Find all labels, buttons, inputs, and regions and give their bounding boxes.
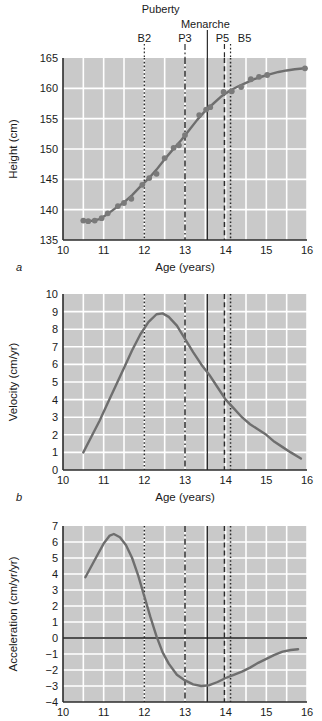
x-tick-label: 13 (179, 474, 191, 486)
y-tick-label: 4 (52, 394, 58, 406)
x-tick-label: 11 (98, 706, 109, 718)
x-tick-label: 16 (301, 474, 313, 486)
y-tick-label: 8 (52, 323, 58, 335)
y-tick-label: 2 (52, 600, 58, 612)
panel-label: a (16, 261, 22, 273)
marker-label-p3: P3 (178, 32, 191, 44)
data-point (80, 218, 86, 224)
x-tick-label: 13 (179, 244, 191, 256)
data-point (154, 171, 160, 177)
y-tick-label: −3 (45, 680, 58, 692)
data-point (92, 218, 98, 224)
y-tick-label: 0 (52, 464, 58, 476)
growth-curves-figure: 10111213141516135140145150155160165Heigh… (0, 0, 322, 721)
y-axis-title: Acceleration (cm/yr/yr) (7, 556, 19, 671)
y-tick-label: 3 (52, 411, 58, 423)
y-tick-label: 4 (52, 568, 58, 580)
panel-label: b (16, 491, 22, 503)
x-tick-label: 12 (138, 244, 150, 256)
data-point (238, 84, 244, 90)
y-tick-label: −1 (45, 648, 58, 660)
data-point (121, 200, 127, 206)
data-point (264, 72, 270, 78)
y-tick-label: 10 (46, 288, 58, 300)
y-axis-title: Height (cm) (7, 119, 19, 179)
y-tick-label: 6 (52, 536, 58, 548)
x-tick-label: 15 (260, 706, 272, 718)
marker-label-p5: P5 (216, 32, 229, 44)
y-tick-label: 3 (52, 584, 58, 596)
y-tick-label: 1 (52, 616, 58, 628)
x-tick-label: 12 (138, 706, 150, 718)
y-tick-label: −4 (45, 696, 58, 708)
y-tick-label: 5 (52, 552, 58, 564)
y-tick-label: 9 (52, 306, 58, 318)
data-point (196, 112, 202, 118)
data-point (115, 203, 121, 209)
marker-label-b2: B2 (138, 32, 151, 44)
marker-label-b5: B5 (238, 32, 251, 44)
x-tick-label: 11 (98, 244, 109, 256)
x-tick-label: 10 (57, 474, 69, 486)
data-point (85, 218, 91, 224)
y-tick-label: 140 (40, 204, 58, 216)
x-tick-label: 11 (98, 474, 109, 486)
data-point (162, 155, 168, 161)
data-point (146, 175, 152, 181)
y-tick-label: 135 (40, 234, 58, 246)
x-tick-label: 14 (220, 706, 232, 718)
data-point (99, 215, 105, 221)
y-axis-title: Velocity (cm/yr) (7, 343, 19, 422)
y-tick-label: 155 (40, 113, 58, 125)
x-tick-label: 15 (260, 474, 272, 486)
y-tick-label: 160 (40, 82, 58, 94)
height-chart: 10111213141516135140145150155160165Heigh… (0, 0, 322, 282)
data-point (171, 145, 177, 151)
y-tick-label: 1 (52, 446, 58, 458)
group-label-menarche: Menarche (181, 18, 230, 30)
data-point (229, 88, 235, 94)
y-tick-label: −2 (45, 664, 58, 676)
data-point (105, 210, 111, 216)
data-point (248, 76, 254, 82)
x-axis-title: Age (years) (155, 261, 215, 273)
data-point (256, 74, 262, 80)
panel-acceleration: 10111213141516−4−3−2−101234567Accelerati… (0, 514, 322, 721)
y-tick-label: 145 (40, 173, 58, 185)
y-tick-label: 7 (52, 341, 58, 353)
data-point (207, 104, 213, 110)
y-tick-label: 0 (52, 632, 58, 644)
x-tick-label: 14 (220, 474, 232, 486)
acceleration-chart: 10111213141516−4−3−2−101234567Accelerati… (0, 514, 322, 721)
x-tick-label: 16 (301, 244, 313, 256)
panel-height: 10111213141516135140145150155160165Heigh… (0, 0, 322, 282)
y-tick-label: 7 (52, 520, 58, 532)
group-label-puberty: Puberty (142, 3, 180, 15)
x-tick-label: 10 (57, 244, 69, 256)
data-point (221, 89, 227, 95)
x-axis-title: Age (years) (155, 491, 215, 503)
chart-annotations: B2P3P5B5PubertyMenarche (138, 3, 252, 58)
data-point (302, 65, 308, 71)
y-tick-label: 150 (40, 143, 58, 155)
data-point (128, 196, 134, 202)
velocity-chart: 10111213141516012345678910Velocity (cm/y… (0, 282, 322, 514)
data-point (176, 142, 182, 148)
y-tick-label: 5 (52, 376, 58, 388)
data-point (139, 182, 145, 188)
y-tick-label: 2 (52, 429, 58, 441)
x-tick-label: 16 (301, 706, 313, 718)
x-tick-label: 12 (138, 474, 150, 486)
x-tick-label: 15 (260, 244, 272, 256)
y-tick-label: 165 (40, 52, 58, 64)
panel-velocity: 10111213141516012345678910Velocity (cm/y… (0, 282, 322, 514)
x-tick-label: 14 (220, 244, 232, 256)
data-point (182, 132, 188, 138)
y-tick-label: 6 (52, 358, 58, 370)
x-tick-label: 10 (57, 706, 69, 718)
x-tick-label: 13 (179, 706, 191, 718)
